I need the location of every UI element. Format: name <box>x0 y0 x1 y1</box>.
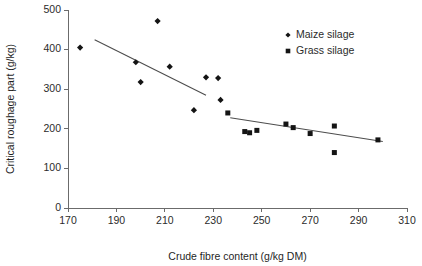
data-point-maize <box>77 45 83 51</box>
legend-label-grass: Grass silage <box>296 44 355 56</box>
x-tick-label: 310 <box>398 214 416 226</box>
x-tick-label: 290 <box>350 214 368 226</box>
y-tick-label: 500 <box>43 3 61 15</box>
data-point-maize <box>191 107 197 113</box>
data-point-maize <box>217 97 223 103</box>
data-point-grass <box>247 130 252 135</box>
legend-marker-maize <box>285 32 290 37</box>
y-axis-title: Critical roughage part (g/kg) <box>4 44 16 174</box>
x-axis-title: Crude fibre content (g/kg DM) <box>168 250 306 262</box>
data-point-maize <box>154 18 160 24</box>
y-tick-label: 400 <box>43 42 61 54</box>
data-point-maize <box>215 75 221 81</box>
trendline-square <box>230 118 383 142</box>
scatter-plot: 0100200300400500170190210230250270290310… <box>0 0 422 266</box>
y-tick-label: 100 <box>43 161 61 173</box>
y-tick-label: 0 <box>55 201 61 213</box>
x-tick-label: 250 <box>253 214 271 226</box>
x-tick-label: 210 <box>156 214 174 226</box>
data-point-grass <box>283 122 288 127</box>
legend-label-maize: Maize silage <box>296 28 355 40</box>
data-point-grass <box>375 137 380 142</box>
x-tick-label: 230 <box>205 214 223 226</box>
data-point-grass <box>225 110 230 115</box>
data-point-maize <box>203 74 209 80</box>
trendline-diamond <box>95 40 206 95</box>
data-point-grass <box>242 129 247 134</box>
x-tick-label: 190 <box>108 214 126 226</box>
x-tick-label: 270 <box>301 214 319 226</box>
data-point-grass <box>332 150 337 155</box>
data-point-grass <box>254 128 259 133</box>
y-tick-label: 200 <box>43 122 61 134</box>
data-point-maize <box>138 79 144 85</box>
y-tick-label: 300 <box>43 82 61 94</box>
data-point-grass <box>308 131 313 136</box>
chart-figure: 0100200300400500170190210230250270290310… <box>0 0 422 266</box>
legend-marker-grass <box>286 49 291 54</box>
data-point-maize <box>133 59 139 65</box>
data-point-maize <box>167 64 173 70</box>
x-tick-label: 170 <box>59 214 77 226</box>
data-point-grass <box>291 125 296 130</box>
data-point-grass <box>332 124 337 129</box>
